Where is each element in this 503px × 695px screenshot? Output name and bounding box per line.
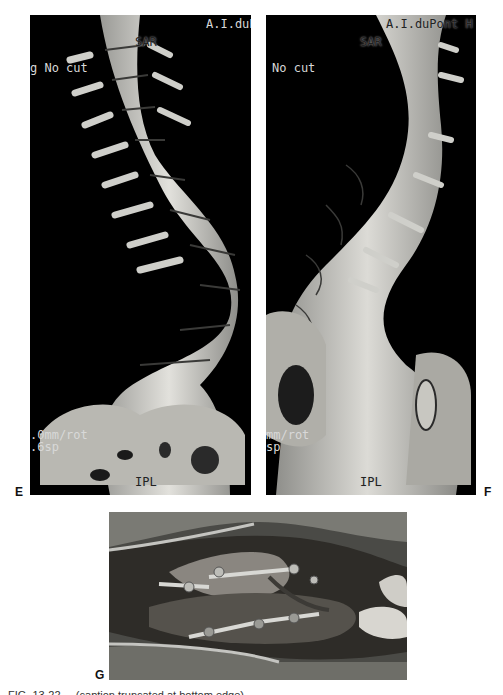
overlay-spacing: .6sp bbox=[30, 440, 59, 454]
overlay-cut-mode: g No cut bbox=[30, 61, 88, 75]
surgical-photo-panel-g bbox=[109, 512, 407, 680]
spine-render-f bbox=[266, 15, 476, 495]
figure-caption: FIG. 13-22 ... (caption truncated at bot… bbox=[8, 688, 503, 695]
panel-label-g: G bbox=[95, 668, 104, 682]
overlay-institution: A.I.duPont H bbox=[206, 17, 251, 31]
overlay-orientation-bottom: IPL bbox=[360, 475, 382, 489]
overlay-cut-mode: No cut bbox=[272, 61, 315, 75]
overlay-spacing: sp bbox=[266, 440, 280, 454]
panel-label-e: E bbox=[15, 485, 23, 499]
surgical-photo bbox=[109, 512, 407, 680]
spine-render-e bbox=[30, 15, 251, 495]
overlay-institution: A.I.duPont H bbox=[386, 17, 473, 31]
overlay-orientation-top: SAR bbox=[135, 35, 157, 49]
ct-panel-f: A.I.duPont H SAR No cut mm/rot sp IPL bbox=[266, 15, 476, 495]
ct-panel-e: A.I.duPont H SAR g No cut .0mm/rot .6sp … bbox=[30, 15, 251, 495]
overlay-orientation-top: SAR bbox=[360, 35, 382, 49]
overlay-orientation-bottom: IPL bbox=[135, 475, 157, 489]
panel-label-f: F bbox=[484, 485, 491, 499]
